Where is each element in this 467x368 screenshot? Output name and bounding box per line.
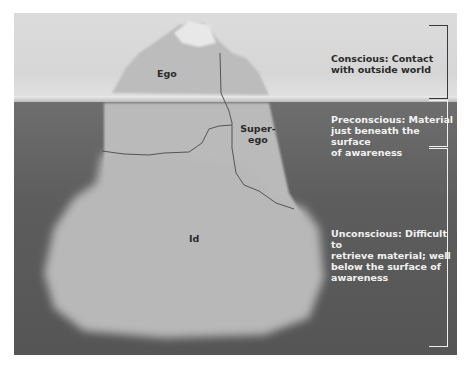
- unconscious-bracket: [429, 148, 448, 347]
- ego-label: Ego: [157, 68, 177, 79]
- superego-label-line2: ego: [238, 134, 278, 145]
- conscious-label-line2: with outside world: [331, 64, 433, 75]
- iceberg-diagram: Ego Super- ego Id Conscious: Contact wit…: [14, 13, 457, 355]
- conscious-label: Conscious: Contact with outside world: [331, 53, 433, 75]
- conscious-bracket: [429, 25, 448, 99]
- superego-label-line1: Super-: [238, 123, 278, 134]
- id-label: Id: [189, 233, 199, 244]
- preconscious-bracket: [429, 100, 448, 147]
- conscious-label-line1: Conscious: Contact: [331, 53, 433, 64]
- superego-label: Super- ego: [238, 123, 278, 145]
